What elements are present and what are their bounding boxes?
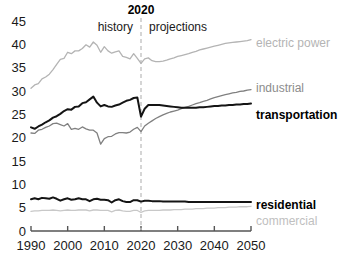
energy-consumption-line-chart: 0510152025303540451990200020102020203020… [0, 0, 351, 267]
y-tick-label-20: 20 [12, 130, 26, 145]
series-label-electric-power: electric power [256, 36, 330, 50]
y-tick-label-10: 10 [12, 177, 26, 192]
x-tick-label-2010: 2010 [90, 238, 119, 253]
y-tick-label-0: 0 [19, 224, 26, 239]
y-axis-ticks: 051015202530354045 [12, 14, 26, 239]
series-label-industrial: industrial [256, 81, 304, 95]
x-tick-label-2030: 2030 [163, 238, 192, 253]
chart-canvas: 0510152025303540451990200020102020203020… [0, 0, 351, 267]
y-tick-label-30: 30 [12, 84, 26, 99]
history-label: history [98, 20, 133, 34]
y-tick-label-45: 45 [12, 14, 26, 29]
series-label-transportation: transportation [256, 108, 337, 122]
y-tick-label-15: 15 [12, 154, 26, 169]
x-tick-label-2050: 2050 [237, 238, 266, 253]
series-label-commercial: commercial [256, 214, 317, 228]
x-tick-label-2040: 2040 [200, 238, 229, 253]
x-tick-label-2000: 2000 [53, 238, 82, 253]
x-tick-label-2020: 2020 [127, 238, 156, 253]
series-labels: electric powerindustrialtransportationre… [256, 36, 337, 228]
chart-annotations: 2020historyprojections [98, 3, 207, 34]
projections-label: projections [149, 20, 207, 34]
y-tick-label-40: 40 [12, 37, 26, 52]
divider-year-label: 2020 [128, 3, 155, 17]
series-label-residential: residential [256, 198, 316, 212]
series-line-residential [31, 197, 251, 202]
x-axis: 1990200020102020203020402050 [17, 226, 266, 253]
y-tick-label-25: 25 [12, 107, 26, 122]
x-tick-label-1990: 1990 [17, 238, 46, 253]
y-tick-label-5: 5 [19, 200, 26, 215]
y-tick-label-35: 35 [12, 60, 26, 75]
